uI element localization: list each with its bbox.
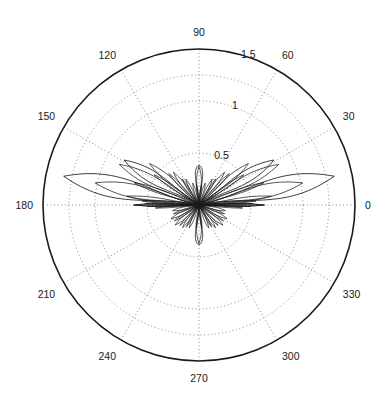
radial-tick-label-1.5: 1.5	[241, 48, 256, 60]
angular-tick-label-270: 270	[190, 372, 208, 384]
angular-tick-label-180: 180	[15, 199, 33, 211]
angular-tick-label-90: 90	[193, 26, 205, 38]
angular-tick-label-330: 330	[343, 288, 361, 300]
polar-chart-canvas: 0306090120150180210240270300330 0.511.5	[0, 0, 392, 405]
angular-tick-label-0: 0	[365, 199, 371, 211]
polar-plot-figure: 0306090120150180210240270300330 0.511.5	[0, 0, 392, 405]
angular-tick-label-240: 240	[98, 350, 116, 362]
radial-tick-label-0.5: 0.5	[214, 149, 229, 161]
angular-tick-label-300: 300	[282, 350, 300, 362]
angular-tick-label-30: 30	[343, 110, 355, 122]
radial-tick-label-1: 1	[232, 99, 238, 111]
angular-tick-label-120: 120	[98, 49, 116, 61]
angular-tick-label-150: 150	[38, 110, 56, 122]
angular-tick-label-210: 210	[38, 288, 56, 300]
angular-tick-label-60: 60	[282, 49, 294, 61]
